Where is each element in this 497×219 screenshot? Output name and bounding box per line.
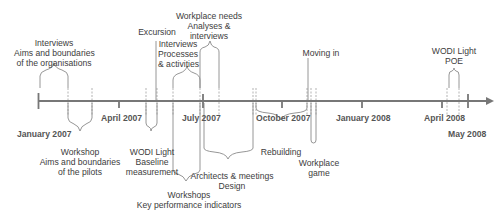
event-interviews-processes: Interviews Processes & activities xyxy=(158,39,198,69)
date-label-jul-2007: July 2007 xyxy=(182,113,221,123)
event-interviews-organisations: Interviews Aims and boundaries of the or… xyxy=(14,38,94,68)
date-label-jan-2008: January 2008 xyxy=(336,113,390,123)
event-moving-in: Moving in xyxy=(296,48,346,58)
date-label-apr-2008: April 2008 xyxy=(424,113,465,123)
event-rebuilding: Rebuilding xyxy=(256,147,306,157)
date-label-oct-2007: October 2007 xyxy=(256,113,310,123)
event-architects-design: Architects & meetings Design xyxy=(186,171,278,191)
event-workplace-game: Workplace game xyxy=(294,158,344,178)
event-workshop-pilots: Workshop Aims and boundaries of the pilo… xyxy=(38,147,122,177)
event-wodi-poe: WODI Light POE xyxy=(430,46,478,66)
date-label-jan-2007: January 2007 xyxy=(17,129,71,139)
event-workshops-kpi: Workshops Key performance indicators xyxy=(134,190,244,210)
date-label-may-2008: May 2008 xyxy=(448,129,486,139)
axis-arrow-icon xyxy=(486,97,494,105)
event-wodi-baseline: WODI Light Baseline measurement xyxy=(124,147,180,177)
event-workplace-needs: Workplace needs Analyses & interviews xyxy=(174,11,244,41)
date-label-apr-2007: April 2007 xyxy=(101,113,142,123)
timeline-axis xyxy=(38,93,487,109)
